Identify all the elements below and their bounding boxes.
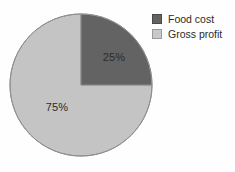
legend-item-gross-profit[interactable]: Gross profit — [152, 27, 234, 41]
legend-label-food-cost: Food cost — [168, 13, 214, 25]
legend-swatch-icon-gross-profit — [152, 29, 162, 39]
pie-chart-svg — [9, 13, 153, 157]
pie-slice-food-cost — [81, 14, 152, 85]
legend-swatch-icon-food-cost — [152, 14, 162, 24]
pie-slice-label-gross-profit: 75% — [41, 101, 73, 113]
legend-label-gross-profit: Gross profit — [168, 28, 222, 40]
pie-chart-figure: 25% 75% Food cost Gross profit — [0, 0, 235, 172]
pie-chart-plot-area — [9, 13, 153, 157]
pie-slice-label-food-cost: 25% — [98, 51, 130, 63]
chart-legend: Food cost Gross profit — [152, 12, 234, 42]
legend-item-food-cost[interactable]: Food cost — [152, 12, 234, 26]
